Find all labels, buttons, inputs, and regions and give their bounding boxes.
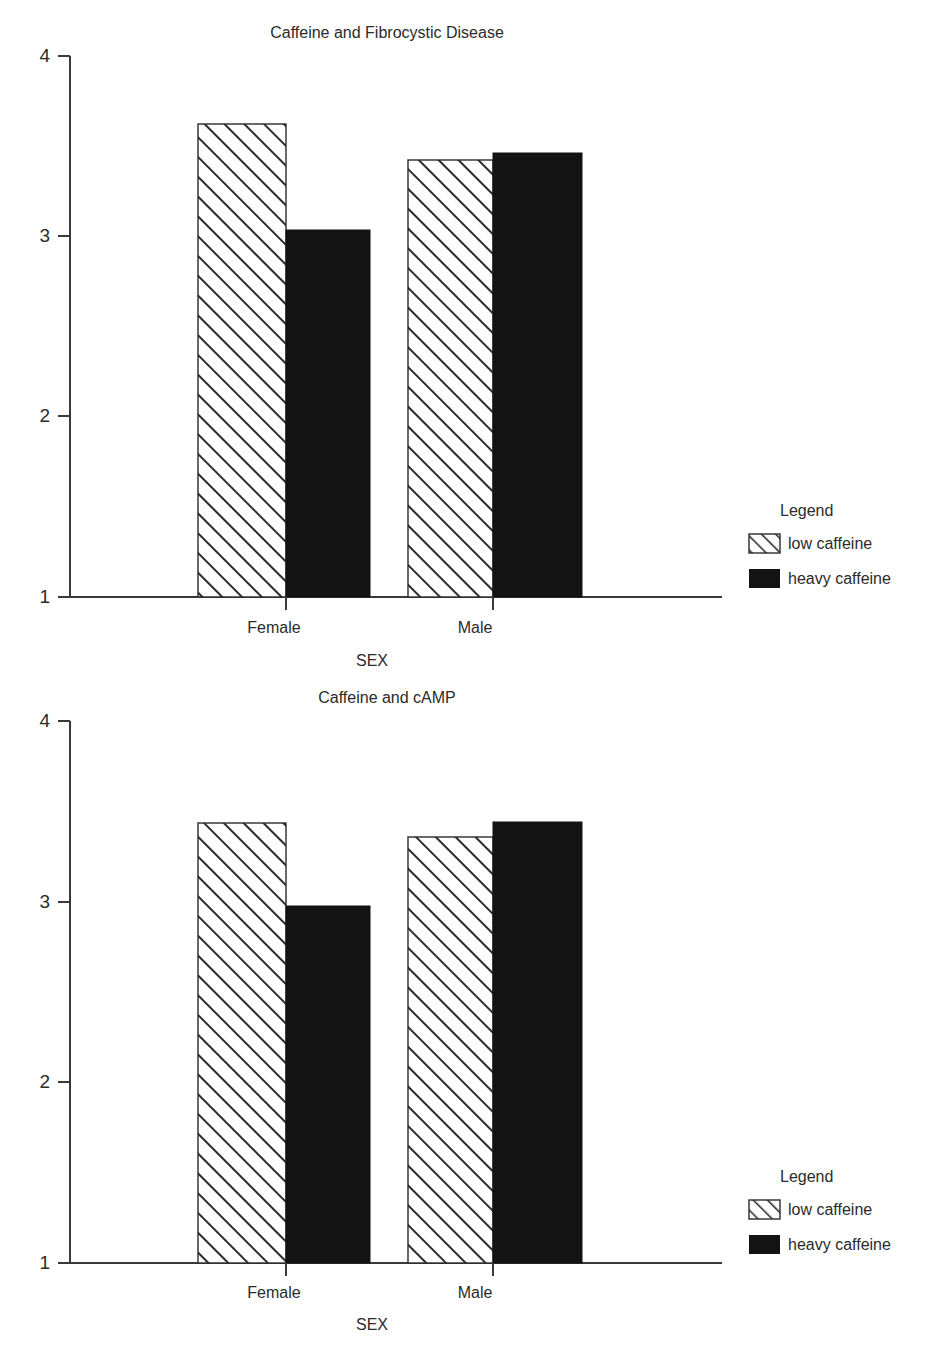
- legend-bottom: Legend low caffeine heavy caffeine: [749, 1168, 891, 1254]
- legend-swatch-low-caffeine-bottom: [749, 1200, 780, 1219]
- bar-male-heavy-caffeine-top: [493, 153, 582, 597]
- x-tick-label-female-bottom: Female: [247, 1284, 300, 1301]
- legend-label-heavy-caffeine-top: heavy caffeine: [788, 570, 891, 587]
- bar-female-low-caffeine-bottom: [198, 823, 286, 1263]
- y-tick-label-1-top: 1: [39, 586, 50, 607]
- x-tick-label-female-top: Female: [247, 619, 300, 636]
- y-tick-label-3-top: 3: [39, 225, 50, 246]
- chart-page: Caffeine and Fibrocystic Disease 4 3 2 1…: [0, 0, 944, 1357]
- chart-title-top: Caffeine and Fibrocystic Disease: [270, 24, 504, 41]
- legend-swatch-heavy-caffeine-top: [749, 569, 780, 588]
- bar-male-heavy-caffeine-bottom: [493, 822, 582, 1263]
- legend-top: Legend low caffeine heavy caffeine: [749, 502, 891, 588]
- bar-male-low-caffeine-top: [408, 160, 493, 597]
- bar-male-low-caffeine-bottom: [408, 837, 493, 1263]
- x-tick-label-male-bottom: Male: [458, 1284, 493, 1301]
- chart-panel-fibrocystic: Caffeine and Fibrocystic Disease 4 3 2 1…: [0, 0, 944, 680]
- x-axis-title-bottom: SEX: [356, 1316, 388, 1333]
- bar-female-low-caffeine-top: [198, 124, 286, 597]
- bar-female-heavy-caffeine-bottom: [286, 906, 370, 1263]
- chart-panel-camp: Caffeine and cAMP 4 3 2 1 Female Male: [0, 660, 944, 1357]
- y-tick-label-2-top: 2: [39, 405, 50, 426]
- x-tick-label-male-top: Male: [458, 619, 493, 636]
- y-tick-label-4-top: 4: [39, 45, 50, 66]
- chart-svg-bottom: Caffeine and cAMP 4 3 2 1 Female Male: [0, 660, 944, 1357]
- chart-title-bottom: Caffeine and cAMP: [318, 689, 456, 706]
- legend-label-low-caffeine-bottom: low caffeine: [788, 1201, 872, 1218]
- legend-label-low-caffeine-top: low caffeine: [788, 535, 872, 552]
- y-tick-label-3-bottom: 3: [39, 891, 50, 912]
- chart-svg-top: Caffeine and Fibrocystic Disease 4 3 2 1…: [0, 0, 944, 680]
- legend-swatch-low-caffeine-top: [749, 534, 780, 553]
- y-tick-label-1-bottom: 1: [39, 1252, 50, 1273]
- y-tick-label-2-bottom: 2: [39, 1071, 50, 1092]
- bar-female-heavy-caffeine-top: [286, 230, 370, 597]
- legend-title-top: Legend: [780, 502, 833, 519]
- y-tick-label-4-bottom: 4: [39, 710, 50, 731]
- legend-swatch-heavy-caffeine-bottom: [749, 1235, 780, 1254]
- legend-label-heavy-caffeine-bottom: heavy caffeine: [788, 1236, 891, 1253]
- legend-title-bottom: Legend: [780, 1168, 833, 1185]
